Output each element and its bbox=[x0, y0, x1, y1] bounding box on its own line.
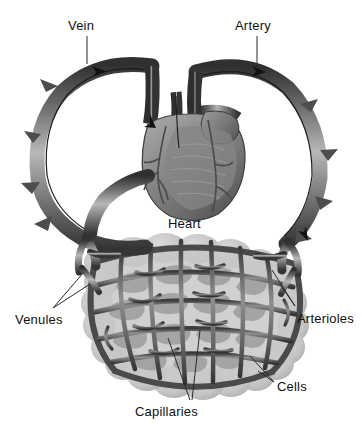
heart-organ bbox=[90, 66, 245, 234]
label-capillaries: Capillaries bbox=[135, 404, 198, 419]
label-venules: Venules bbox=[15, 312, 63, 327]
diagram-canvas: Vein Artery Heart Venules Arterioles Cel… bbox=[0, 0, 362, 428]
label-heart: Heart bbox=[168, 216, 201, 231]
leader-venules-1 bbox=[53, 272, 84, 308]
label-arterioles: Arterioles bbox=[297, 311, 354, 326]
label-artery: Artery bbox=[235, 18, 271, 33]
label-cells: Cells bbox=[277, 379, 307, 394]
circulatory-system-illustration bbox=[0, 0, 362, 428]
label-vein: Vein bbox=[68, 18, 94, 33]
